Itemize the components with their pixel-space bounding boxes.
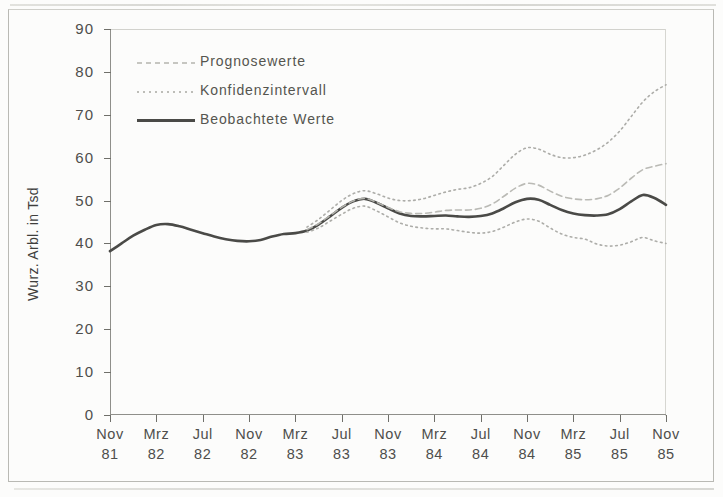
x-axis-tick-mark: [249, 415, 250, 422]
legend-item-beobachtete-werte: Beobachtete Werte: [137, 107, 437, 136]
y-axis-tick-label: 40: [44, 234, 94, 251]
y-axis-title: Wurz. Arbl. in Tsd: [25, 149, 41, 339]
y-axis-tick-label: 10: [44, 363, 94, 380]
dotted-line-swatch: [137, 91, 195, 93]
legend-item-prognosewerte: Prognosewerte: [137, 49, 437, 78]
x-tick-year: 85: [637, 444, 695, 464]
y-axis-tick-label: 20: [44, 320, 94, 337]
y-axis-tick-mark: [104, 115, 111, 116]
y-axis-tick-label: 0: [44, 406, 94, 423]
x-axis-tick-mark: [573, 415, 574, 422]
x-axis-tick-mark: [295, 415, 296, 422]
scanned-chart-page: Wurz. Arbl. in Tsd 0102030405060708090 N…: [0, 0, 723, 497]
y-axis-tick-label: 30: [44, 277, 94, 294]
x-axis-tick-mark: [481, 415, 482, 422]
chart-legend: Prognosewerte Konfidenzintervall Beobach…: [137, 49, 437, 136]
y-axis-tick-label: 50: [44, 192, 94, 209]
y-axis-tick-label: 80: [44, 63, 94, 80]
legend-label: Beobachtete Werte: [200, 111, 335, 127]
x-axis-tick-mark: [342, 415, 343, 422]
x-tick-month: Nov: [637, 424, 695, 444]
y-axis-tick-mark: [104, 158, 111, 159]
y-axis-tick-label: 90: [44, 20, 94, 37]
x-axis-tick-mark: [434, 415, 435, 422]
x-axis-tick-mark: [156, 415, 157, 422]
y-axis-tick-label: 70: [44, 106, 94, 123]
x-axis-tick-mark: [110, 415, 111, 422]
y-axis-tick-mark: [104, 372, 111, 373]
line-chart: Wurz. Arbl. in Tsd 0102030405060708090 N…: [0, 0, 723, 497]
legend-label: Prognosewerte: [200, 53, 306, 69]
legend-item-konfidenzintervall: Konfidenzintervall: [137, 78, 437, 107]
x-axis-tick-mark: [527, 415, 528, 422]
y-axis-tick-mark: [104, 329, 111, 330]
y-axis-tick-mark: [104, 72, 111, 73]
x-axis-tick-mark: [666, 415, 667, 422]
x-axis-tick-mark: [203, 415, 204, 422]
dashed-line-swatch: [137, 62, 195, 64]
solid-line-swatch: [137, 119, 195, 122]
y-axis-tick-mark: [104, 201, 111, 202]
legend-label: Konfidenzintervall: [200, 82, 327, 98]
x-axis-tick-mark: [620, 415, 621, 422]
x-axis-tick-label: Nov85: [637, 424, 695, 464]
x-axis-tick-mark: [388, 415, 389, 422]
y-axis-tick-mark: [104, 243, 111, 244]
y-axis-tick-mark: [104, 29, 111, 30]
y-axis-tick-mark: [104, 286, 111, 287]
y-axis-tick-label: 60: [44, 149, 94, 166]
